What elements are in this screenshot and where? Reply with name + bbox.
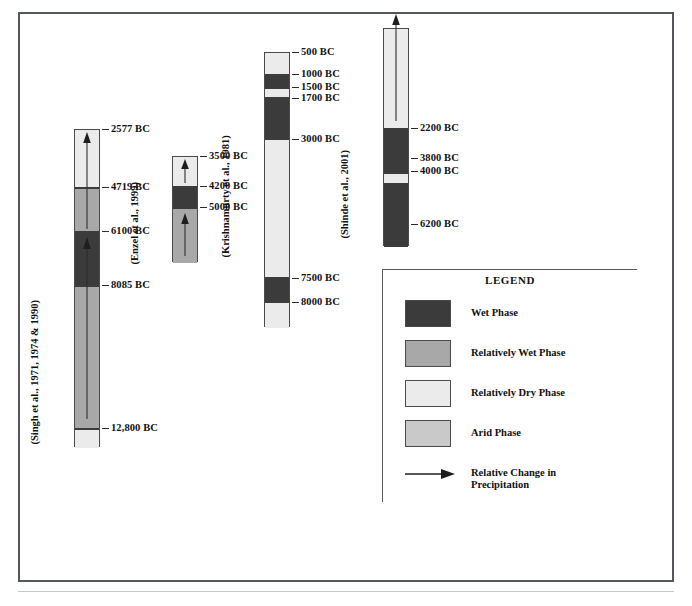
segment-relatively-wet bbox=[75, 188, 99, 232]
segment-relatively-dry bbox=[265, 302, 289, 328]
legend-label-wet: Wet Phase bbox=[471, 307, 518, 319]
segment-wet bbox=[384, 129, 408, 173]
tick-krish-3: 1700 BC bbox=[292, 93, 340, 104]
segment-relatively-dry bbox=[75, 429, 99, 448]
segment-wet bbox=[265, 75, 289, 88]
tick-krish-2: 1500 BC bbox=[292, 82, 340, 93]
segment-relatively-dry bbox=[265, 53, 289, 75]
legend-swatch-relatively-dry bbox=[405, 380, 451, 407]
tick-shinde-2: 4000 BC bbox=[411, 166, 459, 177]
legend-item-relatively-dry: Relatively Dry Phase bbox=[405, 380, 633, 410]
segment-relatively-dry bbox=[384, 173, 408, 184]
source-label-singh: (Singh et al., 1971, 1974 & 1990) bbox=[30, 300, 41, 444]
tick-shinde-3: 6200 BC bbox=[411, 219, 459, 230]
tick-singh-1: 4719 BC bbox=[102, 182, 150, 193]
tick-singh-0: 2577 BC bbox=[102, 124, 150, 135]
legend-item-arid: Arid Phase bbox=[405, 420, 633, 450]
tick-singh-2: 6100 BC bbox=[102, 226, 150, 237]
tick-shinde-1: 3800 BC bbox=[411, 153, 459, 164]
legend-label-relatively-dry: Relatively Dry Phase bbox=[471, 387, 565, 399]
legend-item-precipitation-arrow: Relative Change in Precipitation bbox=[405, 460, 633, 494]
tick-krish-4: 3000 BC bbox=[292, 134, 340, 145]
source-label-shinde: (Shinde et al., 2001) bbox=[340, 150, 351, 238]
tick-krish-1: 1000 BC bbox=[292, 69, 340, 80]
segment-wet bbox=[173, 187, 197, 208]
tick-shinde-0: 2200 BC bbox=[411, 123, 459, 134]
legend-swatch-relatively-wet bbox=[405, 340, 451, 367]
figure-canvas: (Singh et al., 1971, 1974 & 1990) 2577 B… bbox=[0, 0, 692, 606]
legend-swatch-wet bbox=[405, 300, 451, 327]
source-label-enzel: (Enzel et al., 1999) bbox=[130, 182, 141, 265]
arrow-icon bbox=[405, 467, 457, 481]
segment-relatively-wet bbox=[75, 286, 99, 429]
legend-label-precipitation: Relative Change in Precipitation bbox=[471, 467, 556, 491]
caption-rule bbox=[18, 591, 674, 592]
legend-title: LEGEND bbox=[383, 274, 637, 286]
tick-krish-5: 7500 BC bbox=[292, 273, 340, 284]
figure-caption bbox=[20, 594, 670, 605]
legend-label-arid: Arid Phase bbox=[471, 427, 521, 439]
legend-label-relatively-wet: Relatively Wet Phase bbox=[471, 347, 565, 359]
segment-relatively-dry bbox=[384, 29, 408, 129]
legend-swatch-arid bbox=[405, 420, 451, 447]
segment-relatively-dry bbox=[75, 130, 99, 188]
tick-krish-6: 8000 BC bbox=[292, 297, 340, 308]
segment-relatively-dry bbox=[265, 88, 289, 98]
source-label-krishnamurty: (Krishnamurty et al., 1981) bbox=[221, 135, 232, 257]
legend-panel: LEGEND Wet Phase Relatively Wet Phase Re… bbox=[382, 269, 637, 502]
segment-wet bbox=[265, 98, 289, 139]
segment-wet bbox=[265, 278, 289, 302]
legend-item-relatively-wet: Relatively Wet Phase bbox=[405, 340, 633, 370]
segment-relatively-dry bbox=[265, 139, 289, 278]
segment-relatively-wet bbox=[173, 208, 197, 263]
column-enzel bbox=[172, 156, 198, 262]
segment-wet bbox=[384, 184, 408, 247]
column-krishnamurty bbox=[264, 52, 290, 327]
legend-item-wet: Wet Phase bbox=[405, 300, 633, 330]
column-shinde bbox=[383, 28, 409, 246]
tick-krish-0: 500 BC bbox=[292, 47, 335, 58]
segment-wet bbox=[75, 232, 99, 286]
tick-singh-4: 12,800 BC bbox=[102, 423, 158, 434]
tick-singh-3: 8085 BC bbox=[102, 280, 150, 291]
segment-relatively-dry bbox=[173, 157, 197, 187]
figure-frame: (Singh et al., 1971, 1974 & 1990) 2577 B… bbox=[18, 12, 674, 582]
column-singh bbox=[74, 129, 100, 447]
